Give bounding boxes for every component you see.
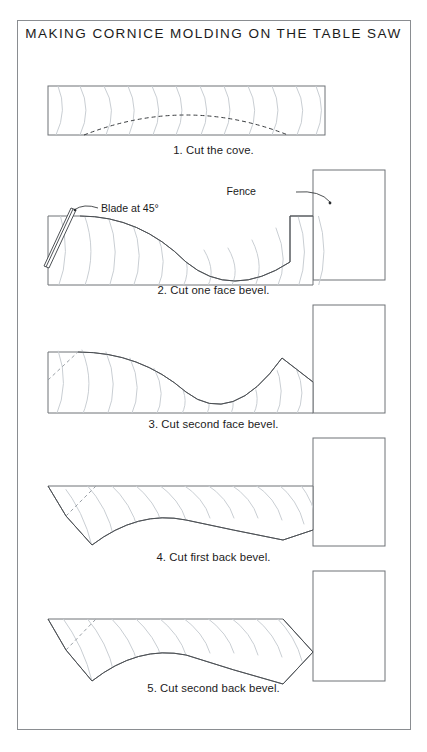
page-title: MAKING CORNICE MOLDING ON THE TABLE SAW	[0, 26, 427, 41]
molding-profile	[48, 619, 313, 684]
step-2-figure: Blade at 45° Fence	[0, 168, 427, 284]
step-2-panel: Blade at 45° Fence 2. Cut one face bevel…	[0, 168, 427, 298]
board-profile	[48, 352, 313, 413]
step-5-figure	[0, 566, 427, 684]
step-2-caption: 2. Cut one face bevel.	[0, 284, 427, 296]
illustration-page: MAKING CORNICE MOLDING ON THE TABLE SAW	[0, 0, 427, 752]
fence-leader-dot	[329, 202, 332, 205]
blade-leader-dot	[74, 209, 77, 212]
step-4-figure	[0, 433, 427, 551]
step-3-panel: 3. Cut second face bevel.	[0, 300, 427, 432]
blade-leader-line	[74, 206, 98, 210]
step-4-caption: 4. Cut first back bevel.	[0, 551, 427, 563]
step-1-figure	[0, 80, 427, 142]
step-1-caption: 1. Cut the cove.	[0, 144, 427, 156]
blade-annotation-label: Blade at 45°	[101, 202, 159, 214]
fence-annotation-label: Fence	[227, 185, 257, 197]
fence-rectangle	[313, 305, 385, 413]
step-3-caption: 3. Cut second face bevel.	[0, 418, 427, 430]
step-3-figure	[0, 300, 427, 418]
fence-rectangle	[313, 438, 385, 546]
step-1-panel: 1. Cut the cove.	[0, 80, 427, 165]
board-rectangle	[48, 86, 325, 135]
fence-rectangle	[313, 571, 385, 681]
step-5-panel: 5. Cut second back bevel.	[0, 566, 427, 698]
step-4-panel: 4. Cut first back bevel.	[0, 433, 427, 565]
molding-profile	[48, 486, 313, 545]
step-5-caption: 5. Cut second back bevel.	[0, 682, 427, 694]
